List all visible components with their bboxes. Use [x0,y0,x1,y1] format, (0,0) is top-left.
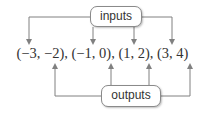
ordered-pairs-text: (−3, −2), (−1, 0), (1, 2), (3, 4) [0,45,205,62]
inputs-label: inputs [100,9,132,23]
output-arrowheads [52,63,193,69]
ordered-pairs-diagram: inputs (−3, −2), (−1, 0), (1, 2), (3, 4)… [0,0,205,120]
outputs-label: outputs [111,88,150,102]
outputs-label-box: outputs [101,85,161,107]
inputs-label-box: inputs [90,6,142,27]
